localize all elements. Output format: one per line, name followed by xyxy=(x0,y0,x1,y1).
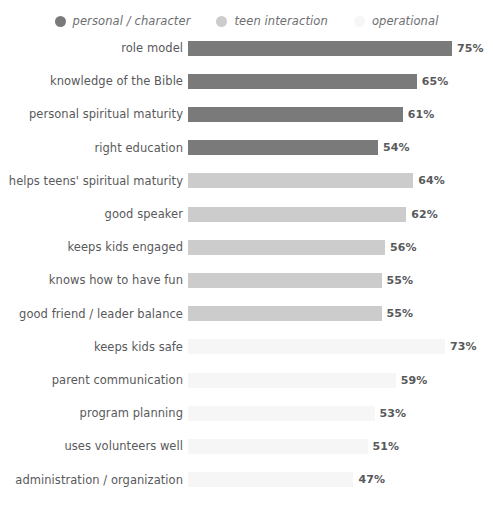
bar-value-label: 65% xyxy=(422,75,449,88)
legend-swatch-personal-icon xyxy=(55,16,66,27)
bar-teen[interactable] xyxy=(188,306,382,321)
bar-teen[interactable] xyxy=(188,273,382,288)
chart-row: good speaker62% xyxy=(0,204,493,224)
bar-personal[interactable] xyxy=(188,41,452,56)
category-label: good speaker xyxy=(0,207,183,221)
category-label: uses volunteers well xyxy=(0,439,183,453)
category-label: role model xyxy=(0,41,183,55)
legend-item-personal[interactable]: personal / character xyxy=(55,14,191,28)
bar-value-label: 56% xyxy=(390,241,417,254)
bar-container: 55% xyxy=(183,273,493,288)
category-label: parent communication xyxy=(0,373,183,387)
legend-swatch-teen-icon xyxy=(216,16,227,27)
bar-value-label: 75% xyxy=(457,42,484,55)
bar-container: 73% xyxy=(183,339,493,354)
legend-item-teen[interactable]: teen interaction xyxy=(216,14,327,28)
chart-row: right education54% xyxy=(0,138,493,158)
bar-operational[interactable] xyxy=(188,472,353,487)
bar-container: 53% xyxy=(183,406,493,421)
bar-container: 55% xyxy=(183,306,493,321)
bar-operational[interactable] xyxy=(188,406,375,421)
chart-row: role model75% xyxy=(0,38,493,58)
category-label: administration / organization xyxy=(0,473,183,487)
chart-row: keeps kids engaged56% xyxy=(0,237,493,257)
bar-value-label: 53% xyxy=(380,407,407,420)
bar-value-label: 64% xyxy=(418,174,445,187)
bar-container: 75% xyxy=(183,41,493,56)
bar-personal[interactable] xyxy=(188,140,378,155)
bar-value-label: 51% xyxy=(373,440,400,453)
bar-value-label: 47% xyxy=(358,473,385,486)
chart-row: program planning53% xyxy=(0,403,493,423)
legend-item-operational[interactable]: operational xyxy=(354,14,439,28)
bar-value-label: 61% xyxy=(408,108,435,121)
bar-container: 64% xyxy=(183,173,493,188)
category-label: knows how to have fun xyxy=(0,273,183,287)
legend-swatch-operational-icon xyxy=(354,16,365,27)
bar-container: 47% xyxy=(183,472,493,487)
chart-row: uses volunteers well51% xyxy=(0,436,493,456)
chart-row: helps teens' spiritual maturity64% xyxy=(0,171,493,191)
bar-value-label: 73% xyxy=(450,340,477,353)
legend-label: operational xyxy=(372,14,439,28)
legend-label: personal / character xyxy=(73,14,191,28)
chart-row: knowledge of the Bible65% xyxy=(0,71,493,91)
chart-row: good friend / leader balance55% xyxy=(0,304,493,324)
bar-personal[interactable] xyxy=(188,74,417,89)
bar-value-label: 59% xyxy=(401,374,428,387)
bar-value-label: 54% xyxy=(383,141,410,154)
bar-container: 56% xyxy=(183,240,493,255)
bar-chart-plot-area: role model75%knowledge of the Bible65%pe… xyxy=(0,36,493,522)
bar-container: 54% xyxy=(183,140,493,155)
bar-operational[interactable] xyxy=(188,373,396,388)
bar-personal[interactable] xyxy=(188,107,403,122)
category-label: keeps kids engaged xyxy=(0,240,183,254)
category-label: keeps kids safe xyxy=(0,340,183,354)
category-label: personal spiritual maturity xyxy=(0,107,183,121)
bar-teen[interactable] xyxy=(188,173,413,188)
bar-value-label: 55% xyxy=(387,307,414,320)
bar-container: 59% xyxy=(183,373,493,388)
chart-row: personal spiritual maturity61% xyxy=(0,104,493,124)
bar-container: 61% xyxy=(183,107,493,122)
bar-container: 51% xyxy=(183,439,493,454)
chart-row: knows how to have fun55% xyxy=(0,270,493,290)
chart-row: keeps kids safe73% xyxy=(0,337,493,357)
bar-container: 65% xyxy=(183,74,493,89)
bar-teen[interactable] xyxy=(188,240,385,255)
category-label: program planning xyxy=(0,406,183,420)
bar-container: 62% xyxy=(183,207,493,222)
category-label: helps teens' spiritual maturity xyxy=(0,174,183,188)
bar-value-label: 55% xyxy=(387,274,414,287)
category-label: right education xyxy=(0,141,183,155)
category-label: knowledge of the Bible xyxy=(0,74,183,88)
bar-value-label: 62% xyxy=(411,208,438,221)
legend-label: teen interaction xyxy=(234,14,327,28)
chart-legend: personal / characterteen interactionoper… xyxy=(0,8,493,34)
category-label: good friend / leader balance xyxy=(0,307,183,321)
chart-row: administration / organization47% xyxy=(0,470,493,490)
bar-teen[interactable] xyxy=(188,207,406,222)
bar-operational[interactable] xyxy=(188,439,368,454)
chart-row: parent communication59% xyxy=(0,370,493,390)
bar-operational[interactable] xyxy=(188,339,445,354)
